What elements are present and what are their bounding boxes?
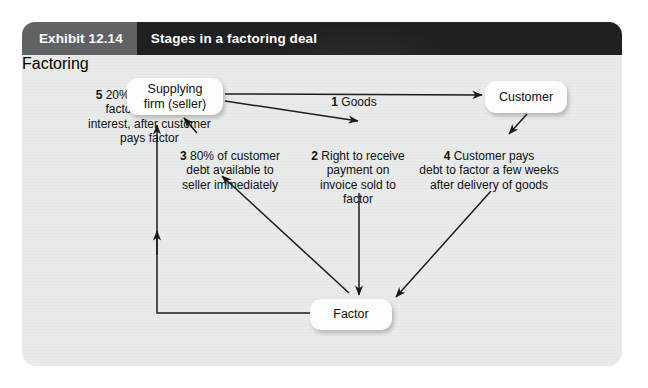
arrow-4-diagonal — [396, 191, 491, 297]
step-1-text: Goods — [341, 95, 376, 109]
step-2-text: Right to receive payment on invoice sold… — [320, 149, 405, 207]
exhibit-title-bar: Stages in a factoring deal — [137, 22, 622, 55]
node-customer-label: Customer — [499, 90, 553, 105]
step-1-number: 1 — [331, 95, 338, 109]
node-supplying-firm[interactable]: Supplying firm (seller) — [127, 78, 223, 115]
step-2-number: 2 — [311, 149, 318, 163]
exhibit-page: Exhibit 12.14 Stages in a factoring deal… — [0, 0, 648, 388]
step-3-number: 3 — [180, 149, 187, 163]
diagram-canvas: Factoring — [22, 55, 622, 366]
exhibit-number-label: Exhibit 12.14 — [39, 31, 123, 46]
step-3-text: 80% of customer debt available to seller… — [182, 149, 280, 192]
node-factor-label: Factor — [333, 307, 368, 322]
step-1-label: 1 Goods — [301, 80, 407, 109]
step-4-text: Customer pays debt to factor a few weeks… — [419, 149, 558, 192]
exhibit-title: Stages in a factoring deal — [151, 31, 317, 46]
exhibit-header: Exhibit 12.14 Stages in a factoring deal — [22, 22, 622, 55]
step-2-label: 2 Right to receive payment on invoice so… — [300, 134, 416, 207]
arrow-4-tip — [509, 114, 527, 134]
node-supplying-firm-label: Supplying firm (seller) — [144, 82, 207, 112]
node-customer[interactable]: Customer — [485, 81, 567, 113]
node-factor[interactable]: Factor — [310, 299, 392, 330]
exhibit-number-badge: Exhibit 12.14 — [22, 22, 137, 55]
step-4-label: 4 Customer pays debt to factor a few wee… — [406, 134, 572, 192]
